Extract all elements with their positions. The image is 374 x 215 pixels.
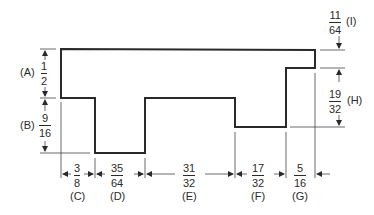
denominator: 16 (294, 177, 306, 189)
fraction-bar (183, 175, 195, 176)
dim-g-value: 516 (293, 162, 307, 189)
dim-h-value: 1932 (328, 88, 342, 115)
dim-tag-i: (I) (346, 15, 356, 27)
dim-tag-g: (G) (292, 190, 308, 202)
dim-tag-e: (E) (182, 190, 197, 202)
dim-tag-d: (D) (110, 190, 125, 202)
dim-e-value: 3132 (182, 162, 196, 189)
numerator: 9 (42, 112, 48, 124)
denominator: 16 (39, 127, 51, 139)
numerator: 3 (74, 162, 80, 174)
fraction-bar (74, 175, 80, 176)
dim-tag-h: (H) (347, 94, 362, 106)
denominator: 64 (111, 177, 123, 189)
dim-c-value: 38 (73, 162, 81, 189)
fraction-bar (294, 175, 306, 176)
dim-tag-b: (B) (20, 119, 35, 131)
numerator: 19 (329, 88, 341, 100)
part-outline (61, 49, 315, 153)
fraction-bar (329, 22, 341, 23)
numerator: 11 (329, 9, 340, 21)
fraction-bar (111, 175, 123, 176)
fraction-bar (329, 101, 341, 102)
denominator: 32 (183, 177, 195, 189)
denominator: 32 (252, 177, 264, 189)
fraction-bar (41, 73, 47, 74)
numerator: 35 (111, 162, 123, 174)
dim-tag-f: (F) (251, 190, 265, 202)
dim-i-value: 1164 (328, 9, 342, 36)
denominator: 64 (329, 24, 341, 36)
denominator: 2 (41, 75, 47, 87)
dim-f-value: 1732 (251, 162, 265, 189)
numerator: 5 (297, 162, 303, 174)
numerator: 1 (41, 60, 47, 72)
dim-d-value: 3564 (110, 162, 124, 189)
denominator: 32 (329, 103, 341, 115)
denominator: 8 (74, 177, 80, 189)
dim-b-value: 916 (38, 112, 52, 139)
numerator: 17 (252, 162, 264, 174)
fraction-bar (39, 125, 51, 126)
numerator: 31 (183, 162, 195, 174)
fraction-bar (252, 175, 264, 176)
dim-a-value: 12 (40, 60, 48, 87)
dim-tag-a: (A) (20, 66, 35, 78)
dim-tag-c: (C) (70, 190, 85, 202)
